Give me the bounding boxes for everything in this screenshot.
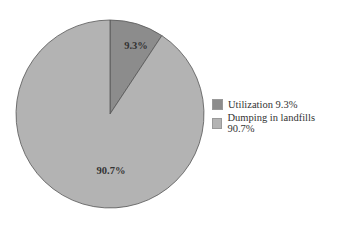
legend-swatch-icon xyxy=(212,118,222,129)
slice-label-landfills: 90.7% xyxy=(97,165,126,176)
legend-item-utilization: Utilization 9.3% xyxy=(212,97,338,111)
slice-label-utilization: 9.3% xyxy=(124,40,148,51)
pie-slice-1 xyxy=(16,20,204,208)
legend-item-landfills: Dumping in landfills 90.7% xyxy=(212,116,338,130)
legend-label: Utilization 9.3% xyxy=(228,99,297,110)
legend-swatch-icon xyxy=(212,99,223,110)
legend-label: Dumping in landfills 90.7% xyxy=(227,112,338,134)
legend: Utilization 9.3% Dumping in landfills 90… xyxy=(212,97,338,135)
